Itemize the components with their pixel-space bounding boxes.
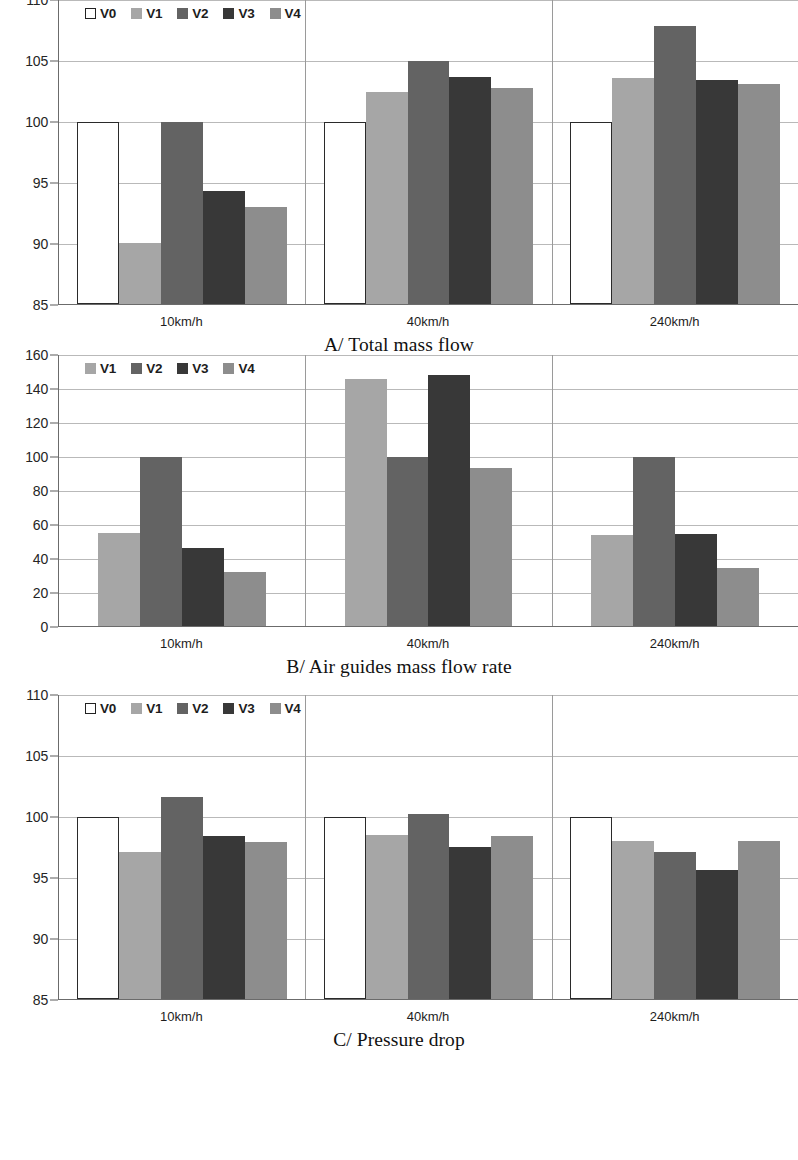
bar-v1-10kmph[interactable] [119, 852, 161, 999]
chart-a-y-tick-label: 100 [25, 114, 48, 130]
bar-v4-40kmph[interactable] [470, 468, 512, 626]
bar-v2-10kmph[interactable] [161, 797, 203, 999]
legend-item-v2[interactable]: V2 [177, 701, 208, 716]
bar-v4-40kmph[interactable] [491, 836, 533, 999]
legend-swatch-v2-icon [131, 363, 142, 374]
legend-swatch-v3-icon [223, 703, 234, 714]
bar-v1-40kmph[interactable] [366, 92, 408, 304]
bar-slot-v4 [491, 695, 533, 999]
bar-slot-v0 [570, 0, 612, 304]
bar-v1-10kmph[interactable] [98, 533, 140, 626]
legend-swatch-v2-icon [177, 703, 188, 714]
chart-c-bar-group [59, 695, 305, 999]
bar-v3-10kmph[interactable] [182, 548, 224, 626]
legend-item-v0[interactable]: V0 [85, 701, 116, 716]
bar-v0-10kmph[interactable] [77, 817, 119, 999]
bar-slot-v1 [612, 695, 654, 999]
legend-item-v1[interactable]: V1 [131, 701, 162, 716]
bar-v3-240kmph[interactable] [696, 870, 738, 999]
chart-b-y-axis: 020406080100120140160 [0, 355, 58, 627]
bar-v2-240kmph[interactable] [633, 457, 675, 626]
chart-a-bar-group [59, 0, 305, 304]
legend-item-v4[interactable]: V4 [270, 701, 301, 716]
chart-b-y-tick-mark [50, 389, 58, 390]
legend-item-v1[interactable]: V1 [131, 6, 162, 21]
bar-v1-240kmph[interactable] [591, 535, 633, 626]
bar-v0-240kmph[interactable] [570, 817, 612, 999]
bar-slot-v3 [449, 695, 491, 999]
legend-item-v2[interactable]: V2 [177, 6, 208, 21]
chart-a-x-labels: 10km/h40km/h240km/h [58, 305, 798, 329]
bar-v2-40kmph[interactable] [408, 814, 450, 999]
chart-b-y-tick-label: 120 [25, 415, 48, 431]
legend-label-v2: V2 [146, 361, 162, 376]
bar-v1-10kmph[interactable] [119, 243, 161, 304]
bar-v4-240kmph[interactable] [738, 841, 780, 999]
legend-item-v3[interactable]: V3 [177, 361, 208, 376]
chart-a-y-tick-mark [50, 0, 58, 1]
chart-a-y-tick-mark [50, 122, 58, 123]
bar-v0-40kmph[interactable] [324, 817, 366, 999]
bar-v4-10kmph[interactable] [224, 572, 266, 626]
chart-c-y-tick-label: 105 [25, 748, 48, 764]
bar-v4-240kmph[interactable] [717, 568, 759, 626]
panel-a-total-mass-flow: 859095100105110 V0V1V2V3V4 10km/h40km/h2… [0, 0, 798, 355]
bar-v0-240kmph[interactable] [570, 122, 612, 304]
legend-item-v4[interactable]: V4 [223, 361, 254, 376]
bar-v3-40kmph[interactable] [449, 847, 491, 999]
bar-v3-240kmph[interactable] [696, 80, 738, 304]
chart-c-bar-groups [59, 695, 798, 999]
bar-v4-40kmph[interactable] [491, 88, 533, 304]
bar-v2-10kmph[interactable] [140, 457, 182, 626]
chart-b-y-tick-label: 60 [33, 517, 48, 533]
bar-v3-240kmph[interactable] [675, 534, 717, 626]
chart-c-y-tick-mark [50, 939, 58, 940]
bar-v4-10kmph[interactable] [245, 207, 287, 304]
bar-v2-240kmph[interactable] [654, 852, 696, 999]
chart-a-y-tick-label: 85 [33, 297, 48, 313]
chart-c-y-tick-label: 95 [33, 870, 48, 886]
bar-v4-10kmph[interactable] [245, 842, 287, 999]
legend-item-v2[interactable]: V2 [131, 361, 162, 376]
legend-label-v1: V1 [146, 701, 162, 716]
bar-slot-v1 [98, 355, 140, 626]
legend-swatch-v0-icon [85, 8, 96, 19]
chart-b-row: 020406080100120140160 V1V2V3V4 [0, 355, 798, 627]
legend-label-v1: V1 [100, 361, 116, 376]
bar-v2-40kmph[interactable] [408, 61, 450, 304]
chart-b-x-label: 40km/h [305, 627, 552, 651]
bar-v3-10kmph[interactable] [203, 836, 245, 999]
chart-b-x-label: 240km/h [551, 627, 798, 651]
bar-v2-240kmph[interactable] [654, 26, 696, 304]
legend-item-v0[interactable]: V0 [85, 6, 116, 21]
bar-slot-v4 [738, 0, 780, 304]
chart-b-bar-groups [59, 355, 798, 626]
chart-a-caption: A/ Total mass flow [0, 329, 798, 356]
bar-v3-40kmph[interactable] [449, 77, 491, 304]
chart-c-x-labels: 10km/h40km/h240km/h [58, 1000, 798, 1024]
legend-item-v3[interactable]: V3 [223, 701, 254, 716]
bar-slot-v4 [245, 695, 287, 999]
legend-item-v4[interactable]: V4 [270, 6, 301, 21]
bar-v4-240kmph[interactable] [738, 84, 780, 304]
bar-slot-v4 [224, 355, 266, 626]
chart-b-legend: V1V2V3V4 [85, 361, 255, 376]
bar-v1-40kmph[interactable] [345, 379, 387, 626]
chart-a-y-tick-label: 95 [33, 175, 48, 191]
bar-v2-40kmph[interactable] [387, 457, 429, 626]
bar-v1-240kmph[interactable] [612, 841, 654, 999]
legend-item-v1[interactable]: V1 [85, 361, 116, 376]
bar-v3-10kmph[interactable] [203, 191, 245, 304]
chart-c-x-label: 10km/h [58, 1000, 305, 1024]
bar-v1-240kmph[interactable] [612, 78, 654, 304]
bar-slot-v0 [570, 695, 612, 999]
chart-a-y-tick-mark [50, 61, 58, 62]
bar-v0-10kmph[interactable] [77, 122, 119, 304]
chart-a-y-tick-mark [50, 244, 58, 245]
bar-v0-40kmph[interactable] [324, 122, 366, 304]
bar-v3-40kmph[interactable] [428, 375, 470, 626]
legend-item-v3[interactable]: V3 [223, 6, 254, 21]
bar-v2-10kmph[interactable] [161, 122, 203, 304]
bar-v1-40kmph[interactable] [366, 835, 408, 999]
chart-b-y-tick-mark [50, 525, 58, 526]
